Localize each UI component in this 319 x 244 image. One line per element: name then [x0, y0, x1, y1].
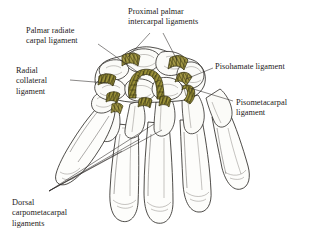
label-pisohamate-ligament: Pisohamate ligament	[215, 62, 285, 72]
label-dorsal-carpometacarpal-ligaments: Dorsal carpometacarpal ligaments	[12, 198, 67, 229]
label-proximal-palmar-intercarpal-ligaments: Proximal palmar intercarpal ligaments	[128, 7, 198, 28]
label-radial-collateral-ligament: Radial collateral ligament	[16, 66, 47, 97]
finger-ring	[180, 120, 211, 212]
label-palmar-radiate-carpal-ligament: Palmar radiate carpal ligament	[26, 26, 78, 47]
label-pisometacarpal-ligament: Pisometacarpal ligament	[236, 98, 287, 119]
anatomical-figure: .bone { fill:#fdfdfb; stroke:#221f1c; st…	[0, 0, 319, 244]
